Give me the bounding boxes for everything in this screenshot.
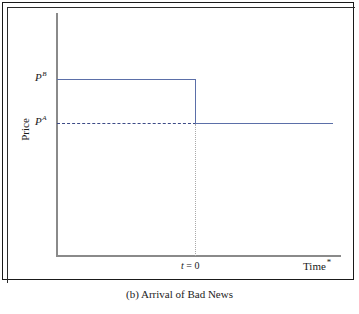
- price-low-reference-dashed-line: [57, 123, 196, 124]
- x-axis-title: Time*: [303, 258, 331, 272]
- figure-caption: (b) Arrival of Bad News: [0, 288, 359, 300]
- x-tick-label-event-time: t = 0: [181, 261, 199, 271]
- x-axis-line: [56, 255, 341, 257]
- x-axis-title-text: Time: [303, 260, 326, 272]
- y-label-price-high-superscript: B: [42, 70, 46, 78]
- price-path-segment-post-news: [195, 123, 333, 124]
- figure-root: PB PA Price t = 0 Time* (b) Arrival of B…: [0, 0, 359, 314]
- x-axis-title-asterisk: *: [326, 257, 331, 267]
- y-axis-line: [56, 13, 58, 257]
- x-tick-label-event-value: = 0: [184, 260, 200, 271]
- event-time-dotted-guide: [195, 124, 196, 256]
- y-label-price-low: PA: [35, 115, 47, 127]
- y-label-price-low-superscript: A: [42, 114, 46, 122]
- price-path-segment-pre-news: [57, 79, 196, 80]
- y-label-price-high: PB: [35, 71, 47, 83]
- plot-area: PB PA Price t = 0 Time*: [0, 0, 359, 314]
- y-axis-title: Price: [20, 100, 31, 160]
- y-label-price-low-base: P: [35, 115, 42, 127]
- price-path-jump-down: [195, 79, 196, 124]
- y-label-price-high-base: P: [35, 71, 42, 83]
